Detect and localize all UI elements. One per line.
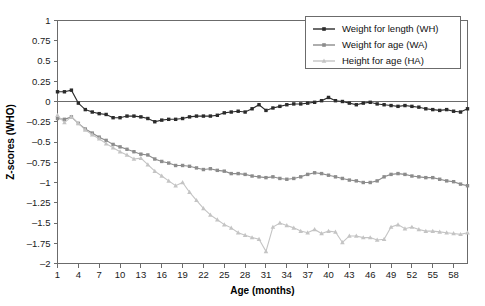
y-tick-label: –0.5 — [32, 136, 51, 147]
series-marker — [91, 110, 94, 113]
series-marker — [236, 172, 239, 175]
series-marker — [84, 108, 87, 111]
series-marker — [355, 103, 358, 106]
x-tick-label: 22 — [198, 269, 209, 280]
series-marker — [153, 120, 156, 123]
x-tick-label: 58 — [448, 269, 459, 280]
chart-legend: Weight for length (WH)Weight for age (WA… — [305, 16, 460, 68]
series-marker — [278, 177, 281, 180]
series-marker — [195, 114, 198, 117]
x-tick-label: 13 — [136, 269, 147, 280]
series-marker — [56, 117, 59, 120]
series-marker — [445, 179, 448, 182]
series-marker — [445, 108, 448, 111]
x-tick-label: 46 — [365, 269, 376, 280]
series-marker — [257, 175, 260, 178]
series-marker — [97, 112, 100, 115]
series-marker — [327, 96, 330, 99]
series-marker — [250, 107, 253, 110]
x-tick-label: 55 — [427, 269, 438, 280]
series-marker — [285, 103, 288, 106]
series-marker — [410, 174, 413, 177]
x-tick-label: 10 — [115, 269, 126, 280]
series-marker — [466, 107, 469, 110]
series-marker — [306, 173, 309, 176]
series-marker — [320, 99, 323, 102]
series-marker — [313, 101, 316, 104]
y-tick-label: –1.25 — [27, 197, 51, 208]
series-marker — [202, 168, 205, 171]
series-marker — [278, 105, 281, 108]
series-marker — [299, 102, 302, 105]
series-marker — [396, 105, 399, 108]
x-tick-label: 19 — [177, 269, 188, 280]
y-axis-title: Z-scores (WHO) — [5, 104, 16, 180]
x-tick-label: 40 — [323, 269, 334, 280]
series-marker — [271, 175, 274, 178]
series-marker — [167, 161, 170, 164]
series-marker — [341, 177, 344, 180]
y-tick-label: 1 — [45, 15, 50, 26]
y-tick-label: –0.25 — [27, 116, 51, 127]
series-marker — [160, 160, 163, 163]
series-marker — [243, 110, 246, 113]
legend-label: Weight for length (WH) — [342, 23, 438, 34]
series-marker — [181, 164, 184, 167]
chart-figure: 10.750.50.250–0.25–0.5–0.75–1–1.25–1.5–1… — [0, 0, 485, 306]
series-marker — [306, 101, 309, 104]
series-marker — [132, 114, 135, 117]
series-marker — [431, 108, 434, 111]
series-marker — [320, 172, 323, 175]
y-tick-label: –2 — [40, 258, 51, 269]
series-marker — [153, 157, 156, 160]
series-marker — [410, 105, 413, 108]
legend-marker — [322, 27, 326, 31]
y-tick-label: 0 — [45, 96, 50, 107]
series-marker — [188, 115, 191, 118]
series-marker — [396, 172, 399, 175]
legend-label: Height for age (HA) — [342, 55, 424, 66]
x-tick-label: 37 — [302, 269, 313, 280]
series-marker — [369, 101, 372, 104]
series-marker — [389, 104, 392, 107]
series-marker — [104, 113, 107, 116]
x-axis-title: Age (months) — [230, 285, 294, 296]
x-tick-label: 43 — [344, 269, 355, 280]
series-marker — [313, 171, 316, 174]
series-marker — [63, 90, 66, 93]
series-marker — [348, 101, 351, 104]
x-tick-label: 28 — [240, 269, 251, 280]
series-marker — [452, 110, 455, 113]
series-marker — [146, 117, 149, 120]
y-tick-label: 0.25 — [32, 76, 51, 87]
series-marker — [139, 115, 142, 118]
series-marker — [195, 166, 198, 169]
x-tick-label: 16 — [156, 269, 167, 280]
series-marker — [264, 109, 267, 112]
series-marker — [382, 175, 385, 178]
series-marker — [209, 167, 212, 170]
series-marker — [111, 116, 114, 119]
legend-marker — [322, 43, 326, 47]
series-marker — [375, 102, 378, 105]
series-marker — [118, 116, 121, 119]
series-marker — [223, 169, 226, 172]
series-marker — [202, 114, 205, 117]
series-marker — [438, 109, 441, 112]
x-tick-label: 31 — [261, 269, 272, 280]
series-marker — [70, 88, 73, 91]
series-marker — [431, 176, 434, 179]
series-marker — [223, 111, 226, 114]
series-marker — [160, 118, 163, 121]
x-tick-label: 7 — [97, 269, 102, 280]
series-marker — [230, 172, 233, 175]
series-marker — [146, 153, 149, 156]
legend-label: Weight for age (WA) — [342, 39, 428, 50]
series-marker — [334, 175, 337, 178]
series-marker — [216, 114, 219, 117]
x-tick-label: 49 — [386, 269, 397, 280]
series-marker — [264, 176, 267, 179]
series-marker — [285, 178, 288, 181]
series-marker — [348, 178, 351, 181]
series-marker — [362, 101, 365, 104]
